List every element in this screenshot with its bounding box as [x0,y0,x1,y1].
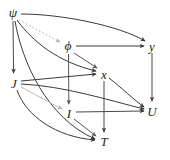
node-J: J [11,77,17,90]
diagram-canvas [0,0,170,160]
node-phi: ϕ [65,39,72,53]
edge-I-to-U [76,111,144,112]
edge-psi-to-phi [19,20,60,42]
node-I: I [67,107,71,120]
causal-diagram: ψ ϕ y J x I U T [0,0,170,160]
edge-x-to-U [109,78,144,107]
node-psi: ψ [9,6,17,20]
node-T: T [100,135,107,148]
edge-layer [13,14,152,140]
node-U: U [147,105,156,118]
edge-psi-to-y [21,14,145,41]
node-y: y [149,40,155,53]
edge-psi-to-J [13,21,14,73]
node-x: x [101,68,107,81]
